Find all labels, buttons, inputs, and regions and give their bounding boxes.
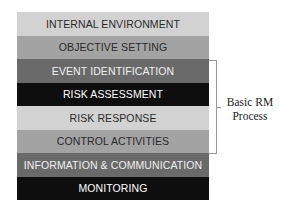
label-line-1: Basic RM [219, 95, 281, 109]
layer-objective-setting: OBJECTIVE SETTING [17, 36, 209, 60]
layer-risk-response: RISK RESPONSE [17, 106, 209, 130]
layer-internal-environment: INTERNAL ENVIRONMENT [17, 12, 209, 36]
layer-stack: INTERNAL ENVIRONMENT OBJECTIVE SETTING E… [17, 12, 209, 200]
layer-label: RISK RESPONSE [69, 112, 156, 124]
basic-rm-bracket [209, 60, 217, 154]
layer-risk-assessment: RISK ASSESSMENT [17, 83, 209, 107]
layer-label: EVENT IDENTIFICATION [52, 65, 174, 77]
layer-control-activities: CONTROL ACTIVITIES [17, 130, 209, 154]
layer-information-communication: INFORMATION & COMMUNICATION [17, 153, 209, 177]
label-line-2: Process [219, 109, 281, 123]
layer-label: MONITORING [78, 182, 147, 194]
layer-label: OBJECTIVE SETTING [59, 41, 167, 53]
layer-label: CONTROL ACTIVITIES [57, 135, 169, 147]
layer-monitoring: MONITORING [17, 177, 209, 201]
layer-label: INFORMATION & COMMUNICATION [24, 159, 202, 171]
basic-rm-process-label: Basic RM Process [219, 95, 281, 123]
layer-label: INTERNAL ENVIRONMENT [46, 18, 180, 30]
layer-event-identification: EVENT IDENTIFICATION [17, 59, 209, 83]
layer-label: RISK ASSESSMENT [63, 88, 163, 100]
